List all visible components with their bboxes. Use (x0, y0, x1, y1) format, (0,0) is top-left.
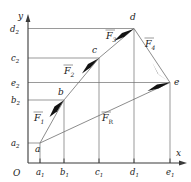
origin-label: O (13, 168, 21, 178)
x-axis-arrowhead (179, 161, 187, 166)
x-tick-label-d1: d1 (130, 167, 139, 178)
svg-text:F2: F2 (63, 65, 75, 78)
vector-label-F3: F3 (105, 30, 117, 43)
point-label-d: d (130, 12, 136, 22)
arrowhead-F1 (50, 101, 64, 118)
vector-label-F4: F4 (144, 38, 156, 51)
arrowhead-F4 (153, 63, 170, 82)
x-tickmarks (40, 159, 170, 164)
vector-label-FR: FR (101, 112, 114, 125)
y-tick-labels: d2 c2 e2 b2 a2 (10, 24, 20, 150)
x-axis-label: x (176, 148, 181, 158)
vector-figure-container: d2 c2 e2 b2 a2 a1 b1 c1 (0, 0, 191, 182)
arrowhead-FR (148, 83, 170, 92)
svg-text:FR: FR (101, 112, 114, 125)
x-tick-label-b1: b1 (60, 167, 69, 178)
y-tick-label-d2: d2 (10, 24, 19, 35)
y-tick-label-b2: b2 (11, 95, 20, 106)
y-tick-label-e2: e2 (11, 78, 20, 89)
svg-text:F3: F3 (105, 30, 117, 43)
y-axis-arrowhead (26, 14, 31, 22)
point-label-c: c (92, 45, 97, 55)
arrowhead-F3 (114, 29, 134, 41)
arrowhead-F2 (82, 59, 99, 74)
y-tick-label-a2: a2 (11, 138, 20, 149)
x-tick-label-e1: e1 (166, 167, 175, 178)
point-label-b: b (58, 87, 64, 97)
vector-label-F1: F1 (33, 112, 44, 125)
y-axis-label: y (17, 11, 24, 21)
point-label-a: a (35, 144, 40, 154)
svg-text:F1: F1 (33, 112, 44, 125)
vector-polygon-svg: d2 c2 e2 b2 a2 a1 b1 c1 (0, 0, 191, 182)
x-tick-labels: a1 b1 c1 d1 e1 (36, 167, 175, 178)
x-tick-label-a1: a1 (36, 167, 45, 178)
svg-text:F4: F4 (144, 38, 156, 51)
shaft-F4 (134, 29, 170, 83)
x-tick-label-c1: c1 (95, 167, 103, 178)
point-label-e: e (174, 77, 179, 87)
vector-label-F2: F2 (63, 65, 75, 78)
y-tick-label-c2: c2 (11, 53, 20, 64)
